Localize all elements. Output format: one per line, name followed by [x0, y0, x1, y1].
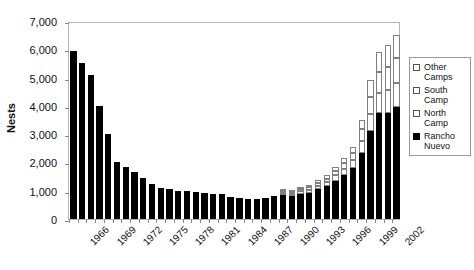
x-axis-tick-labels: 1966196919721975197819811984198719901993… — [68, 222, 400, 270]
bar-group — [332, 167, 338, 219]
y-tick-label: 2,000 — [29, 157, 57, 169]
bar-group — [350, 147, 356, 219]
bar-segment-south-camp — [350, 153, 356, 160]
bar-segment-rancho-nuevo — [393, 107, 399, 219]
x-tick-label: 1999 — [376, 224, 400, 248]
x-tick-label: 1978 — [193, 224, 217, 248]
bar-segment-rancho-nuevo — [324, 186, 330, 219]
bar-segment-rancho-nuevo — [114, 162, 120, 219]
bar-segment-north-camp — [367, 114, 373, 131]
bar-segment-rancho-nuevo — [236, 198, 242, 219]
bar-group — [297, 187, 303, 219]
x-tick-label: 1996 — [350, 224, 374, 248]
bar-segment-south-camp — [367, 97, 373, 115]
bar-segment-rancho-nuevo — [245, 199, 251, 219]
bar-segment-rancho-nuevo — [70, 51, 76, 219]
bar-segment-rancho-nuevo — [105, 134, 111, 219]
bar-segment-rancho-nuevo — [376, 113, 382, 219]
bar-group — [376, 52, 382, 219]
bar-group — [393, 35, 399, 219]
bar-segment-rancho-nuevo — [158, 188, 164, 219]
bar-group — [359, 120, 365, 219]
bar-group — [193, 192, 199, 219]
bar-segment-rancho-nuevo — [254, 199, 260, 219]
y-axis-tick-labels: 01,0002,0003,0004,0005,0006,0007,000 — [6, 22, 61, 220]
bar-group — [385, 45, 391, 219]
bar-group — [254, 199, 260, 219]
bar-group — [236, 198, 242, 219]
legend-item: Other Camps — [413, 62, 467, 82]
bar-segment-other-camps — [359, 120, 365, 129]
x-tick-label: 1990 — [298, 224, 322, 248]
bar-segment-rancho-nuevo — [175, 191, 181, 219]
bar-group — [219, 194, 225, 219]
bar-group — [96, 106, 102, 219]
y-tick-mark — [65, 80, 69, 81]
bar-segment-rancho-nuevo — [96, 106, 102, 219]
bar-group — [315, 180, 321, 219]
bar-group — [227, 197, 233, 219]
bar-segment-rancho-nuevo — [315, 189, 321, 219]
bar-segment-rancho-nuevo — [297, 194, 303, 219]
x-tick-label: 1984 — [245, 224, 269, 248]
plot-inner — [69, 23, 399, 219]
bar-segment-rancho-nuevo — [385, 113, 391, 219]
x-tick-label: 1987 — [271, 224, 295, 248]
y-tick-label: 4,000 — [29, 101, 57, 113]
bar-segment-rancho-nuevo — [271, 196, 277, 219]
bar-segment-rancho-nuevo — [289, 196, 295, 219]
bar-group — [158, 188, 164, 219]
bar-group — [123, 167, 129, 219]
bar-segment-other-camps — [393, 35, 399, 58]
legend-swatch-icon — [413, 110, 420, 117]
legend-label: South Camp — [424, 85, 467, 105]
bar-segment-rancho-nuevo — [210, 194, 216, 219]
bar-segment-rancho-nuevo — [193, 192, 199, 219]
bar-group — [105, 134, 111, 219]
bar-group — [131, 172, 137, 219]
bar-segment-north-camp — [393, 83, 399, 107]
x-tick-label: 1975 — [167, 224, 191, 248]
bar-group — [114, 162, 120, 219]
bar-segment-south-camp — [376, 72, 382, 93]
legend-item: South Camp — [413, 85, 467, 105]
bar-segment-north-camp — [376, 93, 382, 113]
y-tick-mark — [65, 164, 69, 165]
bar-segment-rancho-nuevo — [166, 189, 172, 219]
bar-segment-north-camp — [350, 160, 356, 168]
y-tick-label: 1,000 — [29, 186, 57, 198]
bar-segment-rancho-nuevo — [184, 191, 190, 219]
bar-group — [79, 63, 85, 219]
bar-segment-rancho-nuevo — [201, 193, 207, 219]
bar-segment-other-camps — [367, 80, 373, 96]
bar-segment-rancho-nuevo — [280, 195, 286, 219]
bar-segment-rancho-nuevo — [227, 197, 233, 219]
bar-segment-rancho-nuevo — [123, 167, 129, 219]
bar-segment-rancho-nuevo — [219, 194, 225, 219]
bar-segment-rancho-nuevo — [332, 181, 338, 219]
bar-group — [70, 51, 76, 219]
x-tick-label: 1969 — [114, 224, 138, 248]
legend-label: Rancho Nuevo — [424, 131, 467, 151]
bar-group — [88, 75, 94, 219]
bar-segment-south-camp — [385, 67, 391, 90]
y-tick-label: 7,000 — [29, 16, 57, 28]
bar-segment-north-camp — [385, 90, 391, 113]
bar-group — [262, 198, 268, 219]
bar-group — [271, 196, 277, 219]
legend-label: Other Camps — [424, 62, 467, 82]
nests-bar-chart: Nests 01,0002,0003,0004,0005,0006,0007,0… — [0, 0, 474, 270]
x-tick-label: 1972 — [140, 224, 164, 248]
y-tick-label: 5,000 — [29, 73, 57, 85]
chart-legend: Other CampsSouth CampNorth CampRancho Nu… — [409, 57, 471, 156]
bar-segment-rancho-nuevo — [88, 75, 94, 219]
y-tick-label: 0 — [51, 214, 57, 226]
x-tick-label: 1981 — [219, 224, 243, 248]
bar-group — [149, 184, 155, 219]
bar-group — [341, 158, 347, 219]
bar-segment-rancho-nuevo — [262, 198, 268, 219]
bar-segment-rancho-nuevo — [131, 172, 137, 219]
bar-segment-rancho-nuevo — [306, 193, 312, 219]
bar-segment-south-camp — [359, 129, 365, 140]
x-tick-label: 1966 — [88, 224, 112, 248]
